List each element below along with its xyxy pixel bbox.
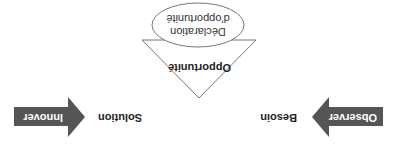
diagram-canvas: Observer Innover Besoin Solution Opportu… (0, 0, 397, 162)
declaration-line-2: d'opportunité (153, 12, 243, 25)
observer-label: Observer (329, 112, 377, 124)
opportunity-label: Opportunité (168, 62, 231, 74)
declaration-text: Déclaration d'opportunité (153, 12, 243, 38)
declaration-line-1: Déclaration (153, 25, 243, 38)
solution-label: Solution (98, 112, 142, 124)
innover-label: Innover (23, 112, 63, 124)
need-label: Besoin (260, 112, 297, 124)
